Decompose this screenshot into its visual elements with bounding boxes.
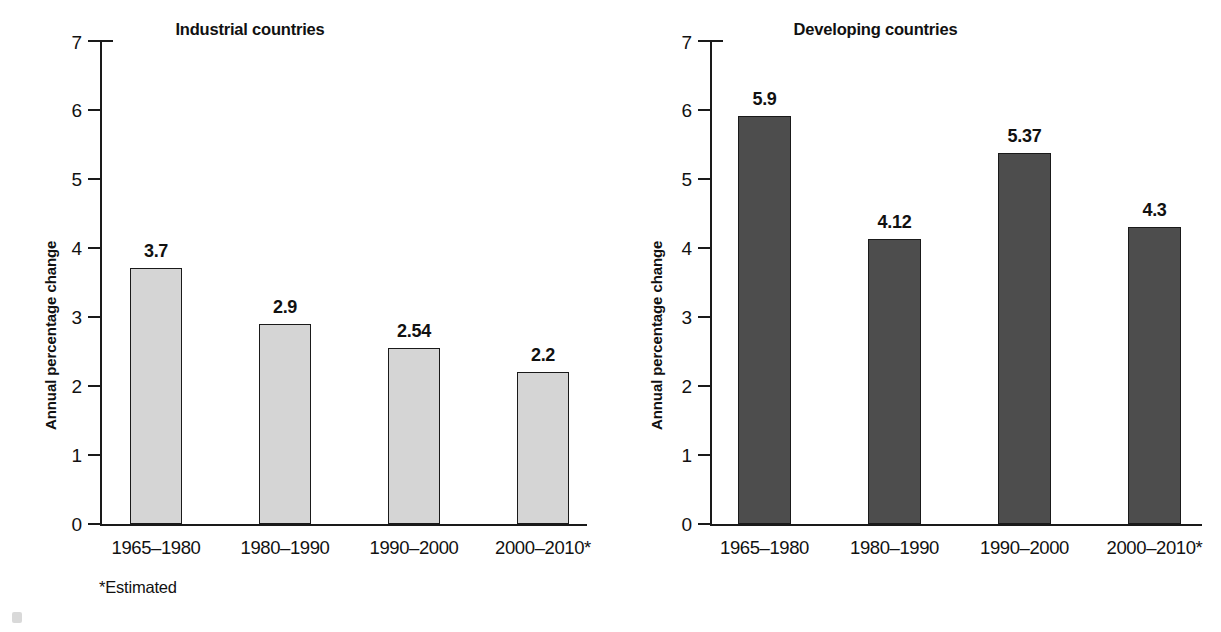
x-axis-line-industrial bbox=[100, 524, 587, 526]
y-tick-label-1: 1 bbox=[71, 446, 82, 465]
x-category-label: 1965–1980 bbox=[720, 537, 809, 559]
bar-value-label: 3.7 bbox=[144, 241, 168, 262]
y-tick-1 bbox=[698, 454, 710, 456]
y-tick-label-3: 3 bbox=[71, 308, 82, 327]
x-axis-line-developing bbox=[710, 524, 1202, 526]
plot-area-developing: 7 6 5 4 3 2 1 0 5.9 1965–1980 4.12 1980–… bbox=[710, 40, 1200, 524]
bar-chart-figure: Industrial countries Annual percentage c… bbox=[0, 0, 1221, 632]
y-tick-2 bbox=[88, 385, 100, 387]
y-tick-label-7: 7 bbox=[681, 33, 692, 52]
y-tick-label-7: 7 bbox=[71, 33, 82, 52]
y-tick-label-6: 6 bbox=[681, 101, 692, 120]
y-tick-label-4: 4 bbox=[71, 239, 82, 258]
chart-title-industrial: Industrial countries bbox=[0, 20, 555, 39]
y-tick-label-1: 1 bbox=[681, 446, 692, 465]
bar-value-label: 5.37 bbox=[1008, 126, 1042, 147]
y-tick-3 bbox=[88, 316, 100, 318]
y-tick-3 bbox=[698, 316, 710, 318]
y-tick-label-0: 0 bbox=[681, 515, 692, 534]
chart-panel-developing: Developing countries Annual percentage c… bbox=[610, 0, 1221, 632]
y-tick-label-6: 6 bbox=[71, 101, 82, 120]
y-axis-label-developing: Annual percentage change bbox=[648, 241, 665, 430]
bar-industrial-2000-2010: 2.2 2000–2010* bbox=[517, 372, 569, 524]
y-tick-4 bbox=[698, 247, 710, 249]
y-axis-line-industrial bbox=[100, 40, 102, 524]
bar-value-label: 2.9 bbox=[273, 297, 297, 318]
bar-developing-1965-1980: 5.9 1965–1980 bbox=[738, 116, 791, 524]
footnote-estimated: *Estimated bbox=[99, 578, 177, 597]
bar-value-label: 5.9 bbox=[752, 89, 776, 110]
y-tick-6 bbox=[698, 109, 710, 111]
y-axis-line-developing bbox=[710, 40, 712, 524]
plot-area-industrial: 7 6 5 4 3 2 1 0 3.7 1965–1980 2.9 1980–1… bbox=[100, 40, 585, 524]
x-category-label: 1980–1990 bbox=[850, 537, 939, 559]
y-tick-label-0: 0 bbox=[71, 515, 82, 534]
y-tick-label-5: 5 bbox=[681, 170, 692, 189]
bar-value-label: 2.2 bbox=[531, 345, 555, 366]
x-category-label: 2000–2010* bbox=[495, 537, 591, 559]
chart-panel-industrial: Industrial countries Annual percentage c… bbox=[0, 0, 610, 632]
y-tick-2 bbox=[698, 385, 710, 387]
bar-industrial-1980-1990: 2.9 1980–1990 bbox=[259, 324, 311, 525]
y-tick-label-2: 2 bbox=[71, 377, 82, 396]
x-category-label: 1980–1990 bbox=[241, 537, 330, 559]
y-tick-label-5: 5 bbox=[71, 170, 82, 189]
scan-artifact-mark bbox=[12, 612, 22, 623]
y-tick-7 bbox=[88, 40, 100, 42]
y-tick-5 bbox=[698, 178, 710, 180]
x-category-label: 1990–2000 bbox=[370, 537, 459, 559]
chart-title-developing: Developing countries bbox=[570, 20, 1181, 39]
x-category-label: 2000–2010* bbox=[1107, 537, 1203, 559]
bar-industrial-1990-2000: 2.54 1990–2000 bbox=[388, 348, 440, 524]
y-tick-4 bbox=[88, 247, 100, 249]
bar-value-label: 4.12 bbox=[878, 212, 912, 233]
bar-value-label: 4.3 bbox=[1142, 200, 1166, 221]
bar-industrial-1965-1980: 3.7 1965–1980 bbox=[130, 268, 182, 524]
y-tick-5 bbox=[88, 178, 100, 180]
y-tick-label-2: 2 bbox=[681, 377, 692, 396]
y-tick-0 bbox=[88, 523, 100, 525]
x-category-label: 1965–1980 bbox=[112, 537, 201, 559]
y-tick-0 bbox=[698, 523, 710, 525]
y-tick-7 bbox=[698, 40, 710, 42]
x-category-label: 1990–2000 bbox=[980, 537, 1069, 559]
bar-developing-1980-1990: 4.12 1980–1990 bbox=[868, 239, 921, 524]
y-axis-label-industrial: Annual percentage change bbox=[42, 241, 59, 430]
bar-developing-2000-2010: 4.3 2000–2010* bbox=[1128, 227, 1181, 524]
y-tick-1 bbox=[88, 454, 100, 456]
y-tick-6 bbox=[88, 109, 100, 111]
bar-developing-1990-2000: 5.37 1990–2000 bbox=[998, 153, 1051, 524]
y-tick-label-4: 4 bbox=[681, 239, 692, 258]
bar-value-label: 2.54 bbox=[397, 321, 431, 342]
y-tick-label-3: 3 bbox=[681, 308, 692, 327]
